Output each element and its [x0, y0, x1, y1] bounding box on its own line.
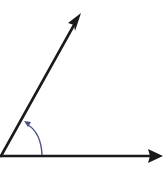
terminal-side-ray: [1, 13, 81, 156]
arrowhead-right-icon: [148, 149, 163, 163]
angle-arc: [24, 121, 42, 155]
angle-diagram: [0, 0, 167, 171]
initial-side-ray: [1, 149, 163, 163]
arrowhead-up-icon: [68, 13, 81, 31]
